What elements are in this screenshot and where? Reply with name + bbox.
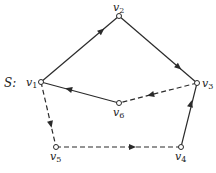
arrowhead-icon [146, 91, 154, 99]
svg-text:v1: v1 [26, 76, 37, 90]
edge-v2-v3 [119, 16, 197, 83]
node-v2: v2 [113, 1, 124, 19]
svg-text:v4: v4 [175, 150, 186, 164]
edge-v4-v3 [181, 83, 197, 147]
node-v6: v6 [113, 101, 124, 121]
arrowhead-icon [187, 99, 195, 107]
edge-v6-v1 [41, 82, 119, 103]
node-v1: v1 [26, 76, 44, 90]
svg-text:v2: v2 [113, 1, 124, 15]
svg-text:v6: v6 [113, 106, 124, 120]
directed-graph-diagram: S: v1 v2 v3 v4 [0, 0, 216, 173]
svg-text:v3: v3 [202, 77, 213, 91]
svg-text:v5: v5 [50, 150, 61, 164]
arrowhead-icon [47, 120, 54, 128]
edge-v1-v5 [41, 82, 56, 147]
edge-v3-v6 [119, 83, 197, 103]
edge-v1-v2 [41, 16, 119, 82]
edge-v5-v4 [56, 144, 181, 150]
graph-name-label: S: [4, 76, 16, 90]
node-v3: v3 [195, 77, 214, 91]
arrowhead-icon [129, 144, 136, 150]
